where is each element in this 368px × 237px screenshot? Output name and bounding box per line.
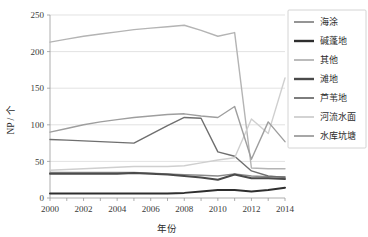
legend-label-3: 滩地 xyxy=(320,73,338,84)
x-tick-label: 2012 xyxy=(242,204,260,214)
line-chart: 050100150200250 200020022004200620082010… xyxy=(0,0,368,237)
x-tick-label: 2002 xyxy=(75,204,93,214)
x-axis-ticks: 20002002200420062008201020122014 xyxy=(41,198,295,214)
series-lines xyxy=(50,25,285,193)
legend: 海涂碱蓬地其他滩地芦苇地河流水面水库坑塘 xyxy=(288,10,366,148)
x-tick-label: 2004 xyxy=(108,204,127,214)
legend-label-4: 芦苇地 xyxy=(320,92,347,103)
series-line-2 xyxy=(50,25,285,168)
x-tick-label: 2010 xyxy=(209,204,228,214)
x-tick-label: 2014 xyxy=(276,204,295,214)
y-tick-label: 200 xyxy=(31,47,45,57)
chart-canvas: 050100150200250 200020022004200620082010… xyxy=(0,0,368,237)
y-tick-label: 250 xyxy=(31,10,45,20)
y-tick-label: 0 xyxy=(40,193,45,203)
y-tick-label: 100 xyxy=(31,120,45,130)
legend-label-6: 水库坑塘 xyxy=(320,130,356,141)
grid-lines xyxy=(50,15,285,161)
y-axis-ticks: 050100150200250 xyxy=(31,10,51,203)
legend-label-5: 河流水面 xyxy=(320,111,356,122)
x-tick-label: 2008 xyxy=(175,204,194,214)
y-tick-label: 50 xyxy=(35,157,45,167)
y-axis-title: NP / 个 xyxy=(6,105,16,134)
y-tick-label: 150 xyxy=(31,83,45,93)
x-tick-label: 2000 xyxy=(41,204,60,214)
x-tick-label: 2006 xyxy=(142,204,161,214)
legend-label-2: 其他 xyxy=(320,54,338,65)
series-line-1 xyxy=(50,188,285,194)
legend-label-1: 碱蓬地 xyxy=(320,35,347,46)
x-axis-title: 年份 xyxy=(157,223,177,234)
legend-label-0: 海涂 xyxy=(320,16,338,27)
